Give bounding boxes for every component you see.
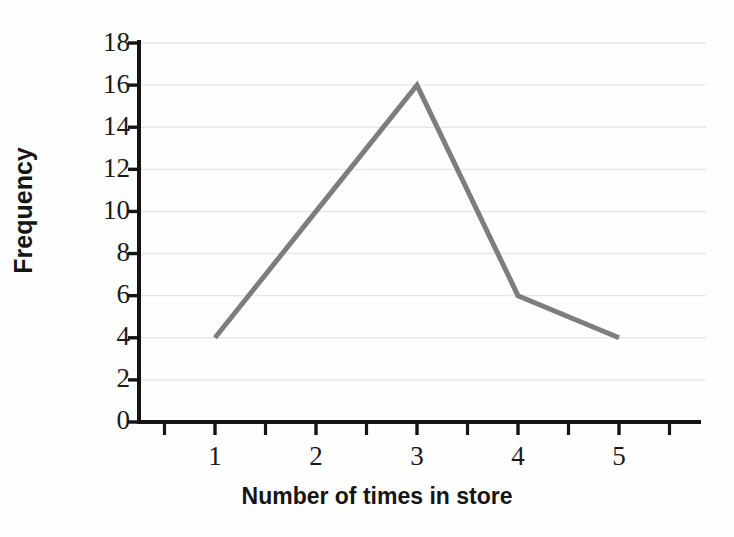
plot-area: [0, 0, 734, 537]
line-chart: Frequency Number of times in store 18 16…: [0, 0, 734, 537]
